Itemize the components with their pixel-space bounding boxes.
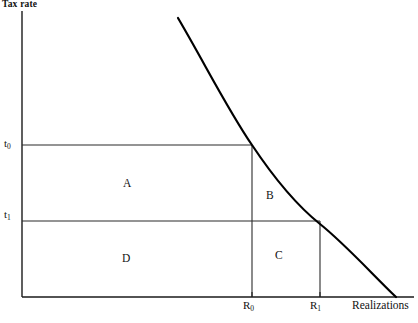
region-label-d: D — [122, 253, 130, 265]
x-tick-R0-subscript: 0 — [250, 304, 254, 313]
region-label-c: C — [275, 250, 283, 262]
tax-rate-realizations-figure: Tax rate t0 t1 R0 R1 Realizations A B C … — [0, 0, 418, 323]
y-tick-label-t1: t1 — [4, 209, 11, 220]
x-axis-title: Realizations — [352, 300, 409, 312]
chart-canvas — [0, 0, 418, 323]
region-label-b: B — [266, 190, 274, 202]
x-tick-R1-subscript: 1 — [317, 304, 321, 313]
tax-rate-curve — [178, 18, 396, 297]
x-tick-label-R0: R0 — [243, 300, 254, 311]
y-tick-label-t0: t0 — [4, 138, 11, 149]
y-tick-t1-subscript: 1 — [7, 213, 11, 222]
x-tick-label-R1: R1 — [310, 300, 321, 311]
region-label-a: A — [123, 178, 131, 190]
y-tick-t0-subscript: 0 — [7, 142, 11, 151]
y-axis-title: Tax rate — [2, 0, 37, 10]
